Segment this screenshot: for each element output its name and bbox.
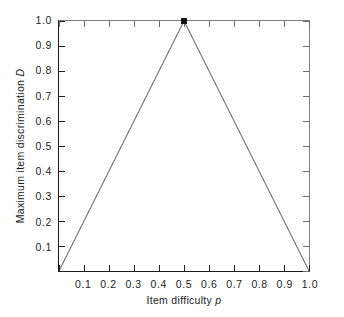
x-axis-tick-bottom <box>159 265 160 271</box>
x-axis-tick-bottom <box>284 265 285 271</box>
x-axis-tick-bottom <box>259 265 260 271</box>
y-axis-tick-label: 0.6 <box>36 115 52 127</box>
x-axis-tick-label: 0.1 <box>75 278 91 290</box>
y-axis-tick-label: 0.5 <box>36 140 52 152</box>
y-axis-tick-left <box>59 246 65 247</box>
plot-area <box>58 20 310 272</box>
x-axis-tick-top <box>159 21 160 27</box>
y-axis-tick-right <box>303 171 309 172</box>
x-axis-tick-top <box>209 21 210 27</box>
x-axis-title: Item difficulty p <box>58 294 310 306</box>
x-axis-tick-bottom <box>109 265 110 271</box>
y-axis-tick-right <box>303 271 309 272</box>
x-axis-tick-top <box>309 21 310 27</box>
x-axis-tick-label: 0.7 <box>226 278 242 290</box>
x-axis-tick-bottom <box>184 265 185 271</box>
x-axis-tick-label: 0.3 <box>125 278 141 290</box>
y-axis-tick-left <box>59 96 65 97</box>
x-axis-tick-label: 0.5 <box>176 278 192 290</box>
y-axis-tick-label: 1.0 <box>36 14 52 26</box>
y-axis-tick-right <box>303 246 309 247</box>
y-axis-tick-right <box>303 46 309 47</box>
x-axis-title-symbol: p <box>215 294 221 306</box>
y-axis-tick-left <box>59 71 65 72</box>
x-axis-tick-bottom <box>209 265 210 271</box>
y-axis-tick-labels: 0.10.20.30.40.50.60.70.80.91.0 <box>26 20 52 272</box>
data-series-line <box>59 21 309 271</box>
x-axis-tick-top <box>59 21 60 27</box>
x-axis-tick-label: 0.2 <box>100 278 116 290</box>
x-axis-tick-label: 0.9 <box>277 278 293 290</box>
y-axis-tick-left <box>59 46 65 47</box>
x-axis-tick-bottom <box>234 265 235 271</box>
y-axis-tick-left <box>59 171 65 172</box>
y-axis-tick-right <box>303 96 309 97</box>
y-axis-tick-right <box>303 221 309 222</box>
chart-figure: 0.10.20.30.40.50.60.70.80.91.0 0.10.20.3… <box>0 0 344 317</box>
y-axis-tick-label: 0.3 <box>36 190 52 202</box>
y-axis-tick-right <box>303 146 309 147</box>
x-axis-tick-label: 0.4 <box>151 278 167 290</box>
y-axis-tick-label: 0.2 <box>36 216 52 228</box>
x-axis-tick-bottom <box>134 265 135 271</box>
y-axis-tick-left <box>59 221 65 222</box>
x-axis-tick-top <box>259 21 260 27</box>
y-axis-tick-label: 0.1 <box>36 241 52 253</box>
x-axis-tick-bottom <box>84 265 85 271</box>
y-axis-tick-label: 0.4 <box>36 165 52 177</box>
x-axis-tick-top <box>234 21 235 27</box>
y-axis-tick-right <box>303 196 309 197</box>
y-axis-tick-left <box>59 196 65 197</box>
x-axis-tick-top <box>134 21 135 27</box>
y-axis-title-symbol: D <box>14 69 26 77</box>
y-axis-tick-right <box>303 71 309 72</box>
y-axis-tick-left <box>59 146 65 147</box>
x-axis-tick-labels: 0.10.20.30.40.50.60.70.80.91.0 <box>58 278 310 294</box>
y-axis-tick-left <box>59 121 65 122</box>
y-axis-title-text: Maximum item discrimination <box>14 77 26 224</box>
y-axis-tick-label: 0.8 <box>36 64 52 76</box>
x-axis-title-text: Item difficulty <box>147 294 216 306</box>
y-axis-tick-label: 0.9 <box>36 39 52 51</box>
x-axis-tick-top <box>84 21 85 27</box>
x-axis-tick-label: 1.0 <box>302 278 318 290</box>
y-axis-title: Maximum item discrimination D <box>14 16 26 276</box>
x-axis-tick-top <box>109 21 110 27</box>
x-axis-tick-top <box>284 21 285 27</box>
data-line-svg <box>59 21 309 271</box>
x-axis-tick-bottom <box>59 265 60 271</box>
y-axis-tick-label: 0.7 <box>36 90 52 102</box>
x-axis-tick-label: 0.8 <box>251 278 267 290</box>
y-axis-tick-left <box>59 271 65 272</box>
x-axis-tick-bottom <box>309 265 310 271</box>
data-point-marker <box>181 18 187 24</box>
x-axis-tick-label: 0.6 <box>201 278 217 290</box>
y-axis-tick-right <box>303 121 309 122</box>
